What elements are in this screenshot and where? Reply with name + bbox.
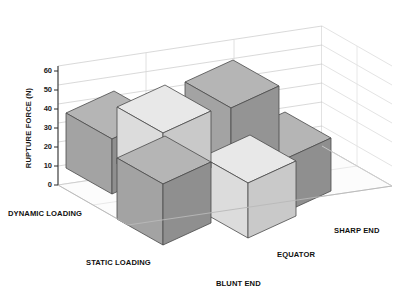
tick-label-60: 60 xyxy=(44,66,52,75)
row-label-static-loading: STATIC LOADING xyxy=(86,258,151,267)
tick-label-40: 40 xyxy=(44,104,52,113)
row-label-dynamic-loading: DYNAMIC LOADING xyxy=(8,209,82,218)
tick-label-50: 50 xyxy=(44,85,52,94)
tick-label-0: 0 xyxy=(48,180,52,189)
chart-canvas: 0 10 20 30 40 50 60 RUPTURE FORCE (N) xyxy=(0,0,401,296)
column-label-blunt-end: BLUNT END xyxy=(216,279,261,288)
tick-label-30: 30 xyxy=(44,123,52,132)
value-axis-title: RUPTURE FORCE (N) xyxy=(24,87,33,168)
tick-label-20: 20 xyxy=(44,142,52,151)
column-label-sharp-end: SHARP END xyxy=(334,226,380,235)
value-axis: 0 10 20 30 40 50 60 RUPTURE FORCE (N) xyxy=(24,66,58,189)
rupture-force-3d-bar-chart: 0 10 20 30 40 50 60 RUPTURE FORCE (N) xyxy=(0,0,401,296)
column-label-equator: EQUATOR xyxy=(277,250,315,259)
tick-label-10: 10 xyxy=(44,161,52,170)
